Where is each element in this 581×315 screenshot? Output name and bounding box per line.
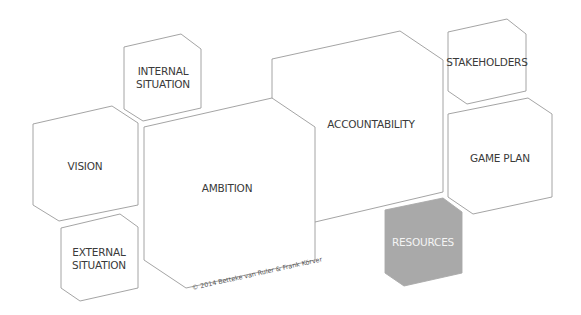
- label-external-situation: EXTERNAL SITUATION: [72, 246, 126, 272]
- label-ambition: AMBITION: [202, 182, 253, 195]
- label-stakeholders: STAKEHOLDERS: [446, 56, 527, 69]
- label-resources: RESOURCES: [392, 236, 454, 249]
- label-vision: VISION: [68, 160, 103, 173]
- label-game-plan: GAME PLAN: [470, 152, 530, 165]
- label-internal-situation: INTERNAL SITUATION: [136, 65, 190, 91]
- label-accountability: ACCOUNTABILITY: [327, 118, 415, 131]
